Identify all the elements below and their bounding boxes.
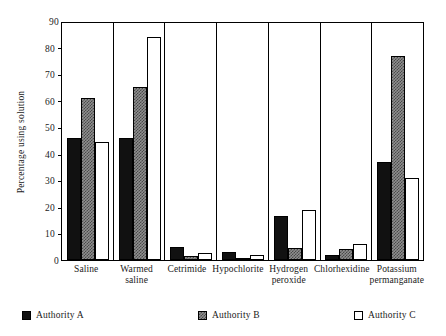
bar [250,255,264,260]
bar [147,37,161,260]
bar-group [165,22,217,260]
bar [184,256,198,260]
bar-group [114,22,166,260]
y-tick-value: 70 [39,70,58,80]
bar-group [62,22,114,260]
x-axis-label: Chlorhexidine [314,264,370,286]
y-tick-value: 50 [39,123,58,133]
x-axis-label-line2: peroxide [264,275,314,286]
legend-item-label: Authority A [36,310,84,320]
bar [302,210,316,260]
bar-group [269,22,321,260]
legend-item[interactable]: Authority C [354,310,416,320]
bar-chart: Percentage using solution 01020304050607… [0,0,446,336]
y-tick-0: 0 [43,256,62,266]
y-tick-70: 70 [39,70,62,80]
bar [353,244,367,260]
bar [391,56,405,260]
y-tick-value: 60 [39,97,58,107]
bar [405,178,419,260]
x-axis-label-line2: permanganate [370,275,424,286]
x-axis-label-line1: Warmed [120,264,153,274]
y-tick-value: 20 [39,203,58,213]
legend-item-label: Authority B [212,310,260,320]
y-tick-50: 50 [39,123,62,133]
x-axis-label-line1: Hydrogen [269,264,308,274]
legend-item[interactable]: Authority A [22,310,198,320]
chart-legend: Authority AAuthority BAuthority C [22,310,432,320]
bar-group [372,22,424,260]
x-axis-label-line2: saline [111,275,161,286]
bar [222,252,236,260]
legend-swatch-icon [22,311,31,320]
y-tick-40: 40 [39,150,62,160]
y-tick-10: 10 [39,229,62,239]
bar [377,162,391,260]
x-axis-label-line1: Chlorhexidine [314,264,370,274]
y-tick-value: 30 [39,176,58,186]
x-axis-label-line1: Potassium [377,264,417,274]
x-axis-label-line1: Hypochlorite [212,264,263,274]
y-tick-value: 40 [39,150,58,160]
y-tick-60: 60 [39,97,62,107]
x-axis-label: Hypochlorite [212,264,263,286]
bar [67,138,81,260]
x-axis-labels: SalineWarmedsalineCetrimideHypochloriteH… [61,264,424,286]
bar-group [217,22,269,260]
y-tick-value: 0 [43,256,62,266]
y-tick-value: 90 [43,17,62,27]
x-axis-label: Warmedsaline [111,264,161,286]
legend-item[interactable]: Authority B [198,310,354,320]
bar [236,258,250,260]
x-axis-label: Cetrimide [162,264,212,286]
bar [274,216,288,260]
bar [198,253,212,260]
bar [288,248,302,260]
bar [133,87,147,260]
x-axis-label: Hydrogenperoxide [264,264,314,286]
bar [95,142,109,260]
bar [119,138,133,260]
y-tick-90: 90 [43,17,62,27]
y-tick-20: 20 [39,203,62,213]
bar-groups [62,22,424,260]
y-tick-30: 30 [39,176,62,186]
legend-swatch-icon [354,311,363,320]
bar [339,249,353,260]
y-tick-value: 10 [39,229,58,239]
x-axis-label-line1: Cetrimide [168,264,207,274]
legend-item-label: Authority C [368,310,416,320]
plot-area: 0102030405060708090 [61,22,424,261]
y-tick-value: 80 [39,44,58,54]
bar [81,98,95,260]
x-axis-label-line1: Saline [74,264,98,274]
legend-swatch-icon [198,311,207,320]
y-tick-80: 80 [39,44,62,54]
bar-group [321,22,373,260]
bar [170,247,184,260]
x-axis-label: Saline [61,264,111,286]
y-axis-label: Percentage using solution [14,22,28,261]
bar [325,255,339,260]
x-axis-label: Potassiumpermanganate [370,264,424,286]
